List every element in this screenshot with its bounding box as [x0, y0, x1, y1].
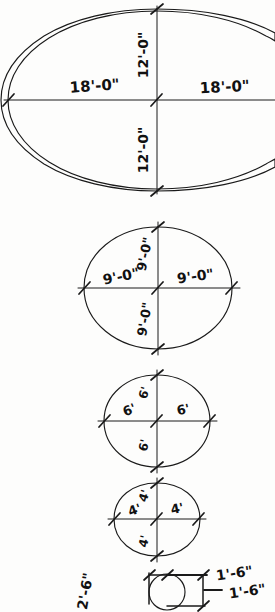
dim-label-left: 6'	[120, 400, 138, 419]
figure-large-ellipse: 18'-0" 18'-0" 12'-0" 12'-0"	[1, 4, 275, 196]
dim-label-bottom: 4'	[136, 534, 152, 549]
detail-dim-label-right: 1'-6"	[228, 581, 267, 602]
figure-small-circle-detail: 1'-6" 1'-6" 2'-6"	[74, 563, 267, 611]
figure-nine-foot-circle: 9'-0" 9'-0" 9'-0" 9'-0"	[78, 222, 240, 355]
detail-dim-label-top: 1'-6"	[215, 563, 254, 584]
dim-label-left: 18'-0"	[69, 75, 120, 96]
sketch-canvas: 18'-0" 18'-0" 12'-0" 12'-0" 9'-0" 9'-0" …	[0, 0, 275, 612]
figure-four-foot-circle: 4' 4' 4' 4'	[108, 478, 206, 562]
dim-label-bottom: 9'-0"	[134, 301, 155, 337]
dim-label-left: 4'	[126, 500, 143, 519]
dim-label-bottom: 12'-0"	[135, 127, 151, 174]
dim-label-right: 9'-0"	[176, 266, 215, 287]
drawing-sheet: 18'-0" 18'-0" 12'-0" 12'-0" 9'-0" 9'-0" …	[0, 0, 275, 612]
detail-circle-outline	[149, 574, 185, 610]
figure-six-foot-circle: 6' 6' 6' 6'	[98, 370, 217, 473]
dim-label-right: 4'	[169, 500, 185, 517]
dim-label-top: 9'-0"	[134, 236, 156, 273]
dim-label-right: 18'-0"	[199, 77, 250, 98]
dim-label-top: 12'-0"	[135, 32, 151, 79]
dim-label-top: 6'	[136, 385, 153, 401]
dim-label-bottom: 6'	[136, 438, 152, 453]
detail-dim-label-left: 2'-6"	[74, 572, 96, 611]
dim-label-right: 6'	[175, 401, 191, 418]
